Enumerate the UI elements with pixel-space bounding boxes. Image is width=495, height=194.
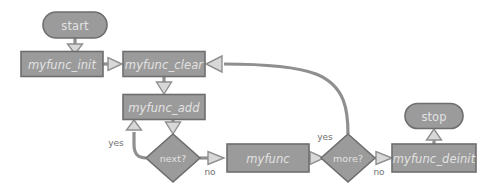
node-myfunc-label: myfunc — [246, 152, 290, 166]
edge-label-next-yes: yes — [108, 138, 124, 148]
edge-label-next-no: no — [204, 167, 216, 177]
edge-myfunc-init-to-myfunc-clear — [103, 58, 122, 71]
node-layer: start myfunc_init myfunc_clear myfunc_ad… — [21, 12, 476, 182]
node-myfunc-clear[interactable]: myfunc_clear — [123, 52, 205, 77]
edge-label-more-yes: yes — [317, 132, 333, 142]
edge-more-no-to-myfunc-deinit — [375, 152, 392, 165]
node-stop[interactable]: stop — [405, 104, 463, 129]
edge-myfunc-deinit-to-stop — [427, 129, 442, 144]
node-myfunc-deinit-label: myfunc_deinit — [393, 152, 476, 166]
node-more-decision-label: more? — [333, 153, 363, 164]
node-next-decision[interactable]: next? — [146, 134, 200, 182]
edge-next-yes-to-myfunc-add — [127, 120, 147, 158]
node-start-label: start — [61, 19, 89, 33]
edge-more-yes-to-myfunc-clear — [206, 56, 348, 134]
node-start[interactable]: start — [43, 12, 107, 38]
node-stop-label: stop — [421, 110, 446, 124]
node-next-decision-label: next? — [160, 153, 187, 164]
edge-next-no-to-myfunc — [200, 152, 224, 165]
flowchart-svg: yes no yes no start myfunc_init myfunc_c… — [0, 0, 495, 194]
edge-myfunc-clear-to-myfunc-add — [157, 77, 172, 94]
node-myfunc-deinit[interactable]: myfunc_deinit — [392, 144, 476, 172]
node-myfunc-init-label: myfunc_init — [28, 58, 96, 72]
node-myfunc-clear-label: myfunc_clear — [125, 58, 204, 72]
edge-myfunc-add-to-next — [166, 120, 181, 134]
node-myfunc[interactable]: myfunc — [227, 144, 309, 172]
edge-label-more-no: no — [373, 167, 385, 177]
node-myfunc-init[interactable]: myfunc_init — [21, 52, 103, 77]
node-myfunc-add[interactable]: myfunc_add — [123, 95, 205, 120]
flowchart-canvas: yes no yes no start myfunc_init myfunc_c… — [0, 0, 495, 194]
node-myfunc-add-label: myfunc_add — [128, 101, 200, 115]
